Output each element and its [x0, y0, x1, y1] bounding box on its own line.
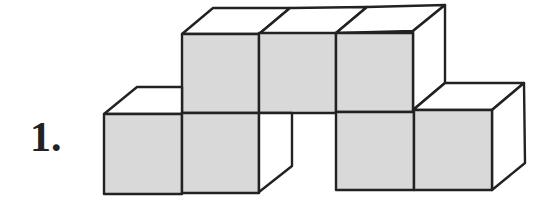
bottom-left-front-faces — [104, 113, 259, 194]
cube-arrangement-diagram — [0, 0, 553, 210]
bottom-left-top-face — [104, 87, 182, 114]
bottom-right-front-faces — [336, 110, 492, 190]
top-row-front-faces — [182, 33, 413, 113]
top-row-top-faces — [182, 5, 445, 34]
bottom-left-right-side-face — [259, 113, 292, 192]
